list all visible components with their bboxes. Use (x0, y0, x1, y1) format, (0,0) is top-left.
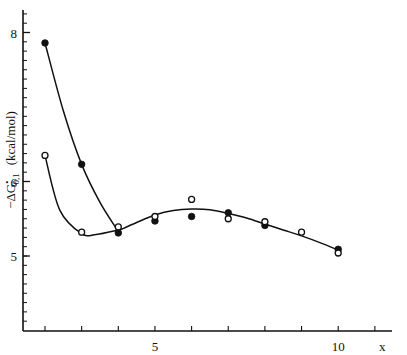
filled-circle-marker (42, 40, 49, 47)
open-circle-marker (299, 229, 305, 235)
chart: 568510 x −ΔG•0,1(kcal/mol) (0, 0, 407, 355)
axes: 568510 (11, 10, 393, 354)
fit-curve-filled-branch (45, 43, 118, 231)
y-tick-label: 8 (11, 26, 18, 41)
open-circle-marker (79, 229, 85, 235)
x-tick-label: 5 (152, 339, 159, 354)
open-circle-marker (115, 224, 121, 230)
open-circle-marker (189, 196, 195, 202)
filled-circle-marker (188, 213, 195, 220)
filled-circle-marker (78, 161, 85, 168)
open-circle-marker (225, 216, 231, 222)
x-axis-label: x (379, 339, 386, 354)
open-circle-marker (42, 152, 48, 158)
data-markers (42, 40, 342, 256)
filled-circle-marker (225, 209, 232, 216)
x-tick-label: 10 (332, 339, 345, 354)
open-circle-marker (262, 219, 268, 225)
open-circle-marker (335, 250, 341, 256)
y-axis-label: −ΔG•0,1(kcal/mol) (2, 111, 21, 209)
axis-labels: x −ΔG•0,1(kcal/mol) (2, 111, 386, 354)
y-tick-label: 5 (11, 249, 18, 264)
open-circle-marker (152, 214, 158, 220)
